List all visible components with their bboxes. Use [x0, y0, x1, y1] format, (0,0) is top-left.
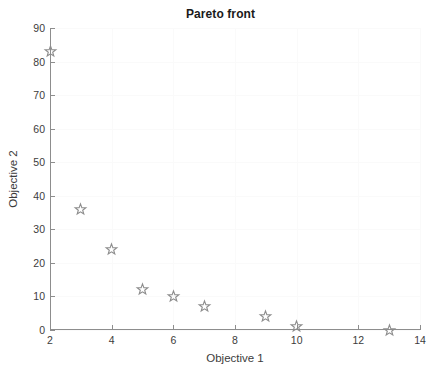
- gridline-horizontal: [50, 28, 420, 29]
- plot-area[interactable]: 0102030405060708090 2468101214: [50, 28, 420, 330]
- x-tick-label: 10: [291, 334, 303, 346]
- y-axis-label: Objective 2: [5, 28, 21, 330]
- x-tick-label: 14: [414, 334, 426, 346]
- x-axis-label: Objective 1: [50, 352, 420, 364]
- y-tick-label: 60: [33, 123, 45, 135]
- data-point-marker: [136, 283, 149, 296]
- y-tick-label: 0: [39, 324, 45, 336]
- y-axis-label-text: Objective 2: [7, 150, 19, 208]
- gridline-vertical: [235, 28, 236, 330]
- data-point-marker: [167, 290, 180, 303]
- x-tick-mark: [358, 325, 359, 330]
- gridline-horizontal: [50, 95, 420, 96]
- gridline-horizontal: [50, 296, 420, 297]
- y-tick-mark: [50, 229, 55, 230]
- gridline-vertical: [358, 28, 359, 330]
- gridline-horizontal: [50, 229, 420, 230]
- data-point-marker: [44, 45, 57, 58]
- data-point-marker: [105, 243, 118, 256]
- x-tick-label: 12: [352, 334, 364, 346]
- x-tick-mark: [50, 325, 51, 330]
- y-tick-label: 50: [33, 156, 45, 168]
- gridline-vertical: [173, 28, 174, 330]
- gridline-vertical: [112, 28, 113, 330]
- y-tick-mark: [50, 95, 55, 96]
- x-tick-mark: [112, 325, 113, 330]
- y-tick-mark: [50, 296, 55, 297]
- x-tick-mark: [235, 325, 236, 330]
- x-tick-label: 2: [47, 334, 53, 346]
- x-tick-label: 4: [109, 334, 115, 346]
- data-point-marker: [290, 320, 303, 333]
- figure-canvas: Pareto front 0102030405060708090 2468101…: [0, 0, 441, 382]
- y-tick-mark: [50, 28, 55, 29]
- y-tick-mark: [50, 162, 55, 163]
- x-tick-label: 6: [170, 334, 176, 346]
- y-tick-label: 10: [33, 290, 45, 302]
- gridline-horizontal: [50, 263, 420, 264]
- gridline-vertical: [297, 28, 298, 330]
- x-tick-mark: [173, 325, 174, 330]
- gridline-horizontal: [50, 330, 420, 331]
- data-point-marker: [74, 203, 87, 216]
- gridline-horizontal: [50, 129, 420, 130]
- data-point-marker: [383, 324, 396, 337]
- y-tick-mark: [50, 196, 55, 197]
- gridline-horizontal: [50, 196, 420, 197]
- y-tick-label: 90: [33, 22, 45, 34]
- y-axis-line: [50, 28, 51, 330]
- y-tick-label: 20: [33, 257, 45, 269]
- chart-title: Pareto front: [0, 7, 441, 21]
- y-tick-label: 30: [33, 223, 45, 235]
- x-tick-mark: [420, 325, 421, 330]
- y-tick-mark: [50, 263, 55, 264]
- gridline-horizontal: [50, 62, 420, 63]
- y-tick-label: 70: [33, 89, 45, 101]
- data-point-marker: [259, 310, 272, 323]
- y-tick-mark: [50, 129, 55, 130]
- y-tick-mark: [50, 62, 55, 63]
- data-point-marker: [198, 300, 211, 313]
- gridline-horizontal: [50, 162, 420, 163]
- y-tick-label: 40: [33, 190, 45, 202]
- y-tick-mark: [50, 330, 55, 331]
- gridline-vertical: [420, 28, 421, 330]
- x-tick-label: 8: [232, 334, 238, 346]
